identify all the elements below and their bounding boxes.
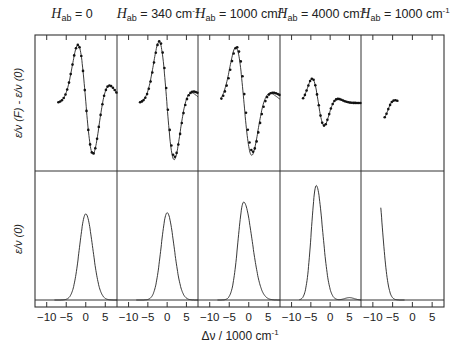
fit-point [151,71,154,74]
fit-point [307,84,310,87]
fit-point [262,105,265,108]
x-axis-label: Δν / 1000 cm-1 [201,328,278,343]
x-tick-label: −5 [386,311,399,323]
fit-point [98,126,101,129]
fit-point [78,46,81,49]
curves [55,40,405,300]
fit-point [142,99,145,102]
fit-point [318,104,321,107]
fit-point [328,113,331,116]
x-tick-label: 5 [183,311,189,323]
fit-point [82,70,85,73]
fit-point [113,89,116,92]
calculated-curve [140,42,198,160]
fit-point [75,47,78,50]
fit-point [168,129,171,132]
fit-point [236,46,239,49]
x-tick-label: −10 [200,311,220,323]
fit-point [252,150,255,153]
panel-frames [35,35,444,307]
fit-point [396,99,399,102]
fit-point [222,94,225,97]
fit-point [259,122,262,125]
fit-point [163,67,166,70]
fit-point [161,51,164,54]
fit-point [71,63,74,66]
fit-point [359,102,362,105]
fit-point [225,84,228,87]
fit-point [331,103,334,106]
fit-point [238,50,241,53]
fit-point [224,90,227,93]
fit-point [314,84,317,87]
fit-point [227,77,230,80]
fit-point [153,61,156,64]
absorption-band [136,213,198,300]
fit-point [165,87,168,90]
x-tick-label: 0 [164,311,170,323]
fit-point [172,153,175,156]
x-tick-label: 5 [265,311,271,323]
fit-point [174,156,177,159]
fit-point [196,91,199,94]
fit-point [69,73,72,76]
absorption-band [299,186,361,300]
fit-point [179,133,182,136]
fit-point [312,79,315,82]
fit-point [99,114,102,117]
x-tick-label: −5 [141,311,154,323]
x-tick-label: −5 [223,311,236,323]
fit-point [64,93,67,96]
fit-point [182,112,185,115]
y-axis-label-top: ε/ν (F) - ε/ν (0) [12,68,24,138]
fit-point [241,75,244,78]
fit-point [177,143,180,146]
x-axis-label-text: Δν / 1000 cm [201,329,271,343]
fit-point [261,113,264,116]
panel-title: Hab = 4000 cm-1 [277,6,366,23]
fit-point [170,144,173,147]
fit-point [385,113,388,116]
fit-point [158,40,161,43]
x-axis-label-unit: -1 [271,328,278,337]
fit-point [302,97,305,100]
fit-point [321,121,324,124]
fit-point [245,112,248,115]
fit-point [96,137,99,140]
fit-point [255,140,258,143]
fit-point [257,131,260,134]
x-tick-label: 0 [409,311,415,323]
fit-point [62,97,65,100]
fit-point [187,94,190,97]
fit-point [101,103,104,106]
fit-point [89,143,92,146]
absorption-band [55,214,118,300]
fit-point [149,80,152,83]
fit-point [148,87,151,90]
fit-point [387,108,390,111]
fit-point [266,96,269,99]
x-tick-label: −10 [282,311,302,323]
calculated-curve [221,47,280,155]
fit-point [144,96,147,99]
x-tick-label: 0 [327,311,333,323]
fit-point [383,116,386,119]
fit-point [319,114,322,117]
x-tick-label: 5 [429,311,435,323]
fit-point [220,97,223,100]
fit-point [184,104,187,107]
x-tick-label: −10 [37,311,57,323]
fit-point [316,93,319,96]
fit-point [254,147,257,150]
panel-title: Hab = 1000 cm-1 [360,6,449,23]
fit-point [309,80,312,83]
x-tick-label: −5 [304,311,317,323]
x-tick-label: 0 [246,311,252,323]
fit-point [160,42,163,45]
fit-point [105,89,108,92]
fit-point [243,93,246,96]
fit-point [112,86,115,89]
fit-point [94,147,97,150]
fit-point [84,89,87,92]
fit-point [103,94,106,97]
